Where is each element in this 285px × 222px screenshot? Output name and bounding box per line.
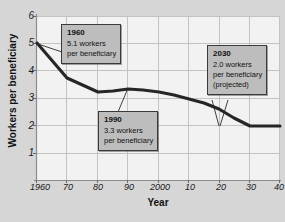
- y-tick-label-2: 2: [20, 121, 34, 131]
- callout-1990: 1990 3.3 workers per beneficiary: [98, 111, 158, 151]
- y-tick-label-6: 6: [20, 11, 34, 21]
- callout-1960-line2: per beneficiary: [67, 49, 116, 59]
- callout-1960-line1: 5.1 workers: [67, 39, 116, 49]
- callout-1990-year: 1990: [104, 115, 153, 125]
- callout-1990-line2: per beneficiary: [104, 136, 153, 146]
- callout-2030-line3: (projected): [213, 80, 262, 90]
- y-tick-label-5: 5: [20, 38, 34, 48]
- x-tick-label-1980: 80: [93, 182, 103, 192]
- x-tick-label-1970: 70: [63, 182, 73, 192]
- workers-per-beneficiary-chart: 6 5 4 3 2 1 1960 70 80 90 2000 10 20 30 …: [0, 0, 285, 222]
- x-tick-label-2000: 2000: [150, 182, 170, 192]
- callout-2030: 2030 2.0 workers per beneficiary (projec…: [207, 45, 267, 95]
- y-tick-label-1: 1: [20, 148, 34, 158]
- y-tick-label-3: 3: [20, 93, 34, 103]
- x-tick-label-2020: 20: [216, 182, 226, 192]
- x-tick-label-1960: 1960: [30, 182, 50, 192]
- y-axis-title: Workers per beneficiary: [7, 16, 18, 166]
- callout-2030-line2: per beneficiary: [213, 70, 262, 80]
- x-tick-label-2010: 10: [185, 182, 195, 192]
- callout-2030-line1: 2.0 workers: [213, 60, 262, 70]
- callout-1960-year: 1960: [67, 28, 116, 38]
- y-tick-label-4: 4: [20, 66, 34, 76]
- x-axis-title: Year: [36, 197, 280, 208]
- callout-1960: 1960 5.1 workers per beneficiary: [61, 24, 121, 64]
- x-tick-label-1990: 90: [124, 182, 134, 192]
- callout-2030-year: 2030: [213, 49, 262, 59]
- callout-1990-line1: 3.3 workers: [104, 126, 153, 136]
- x-tick-label-2040: 40: [274, 182, 284, 192]
- x-tick-label-2030: 30: [246, 182, 256, 192]
